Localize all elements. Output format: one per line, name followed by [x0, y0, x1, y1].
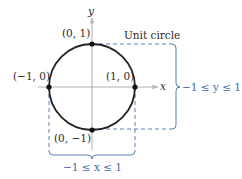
- point-label-left: (−1, 0): [13, 70, 50, 82]
- y-range-label: −1 ≤ y ≤ 1: [182, 81, 241, 93]
- point-right: [132, 84, 137, 89]
- diagram-title: Unit circle: [124, 29, 180, 41]
- point-label-top: (0, 1): [62, 27, 90, 39]
- point-label-right: (1, 0): [106, 70, 134, 82]
- x-range-label: −1 ≤ x ≤ 1: [63, 161, 122, 173]
- point-left: [46, 84, 51, 89]
- y-axis-label: y: [87, 5, 95, 17]
- unit-circle-diagram: y x Unit circle (0, 1) (−1, 0) (1, 0) (0…: [0, 0, 242, 179]
- x-range-bracket: [49, 151, 135, 159]
- x-axis-label: x: [160, 80, 166, 92]
- point-top: [89, 41, 94, 46]
- point-label-bottom: (0, −1): [54, 132, 91, 144]
- y-range-bracket: [172, 44, 180, 129]
